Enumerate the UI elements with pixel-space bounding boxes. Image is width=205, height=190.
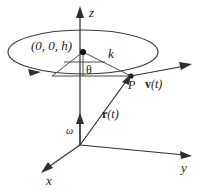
vector-diagram: z y x θ k (0, 0, h) P v(t) bbox=[0, 0, 205, 190]
position-vector-argument: (t) bbox=[107, 107, 118, 121]
z-axis-arrowhead bbox=[76, 6, 84, 18]
circle-center-dot bbox=[80, 49, 86, 55]
y-axis-label: y bbox=[179, 160, 187, 175]
theta-angle-label: θ bbox=[86, 63, 92, 77]
position-vector-label: r(t) bbox=[102, 107, 119, 121]
velocity-vector-argument: (t) bbox=[151, 77, 162, 91]
angular-velocity-arrowhead bbox=[76, 113, 84, 124]
angular-velocity-label: ω bbox=[66, 125, 73, 136]
velocity-vector-arrowhead bbox=[179, 62, 192, 70]
x-axis-line bbox=[47, 145, 80, 168]
radius-k-label: k bbox=[108, 46, 114, 61]
y-axis-line bbox=[80, 145, 185, 155]
circle-center-coordinate-label: (0, 0, h) bbox=[31, 38, 72, 53]
figure-container: z y x θ k (0, 0, h) P v(t) bbox=[0, 0, 205, 190]
velocity-vector-label: v(t) bbox=[145, 77, 162, 91]
z-axis-label: z bbox=[88, 5, 94, 20]
velocity-vector-line bbox=[131, 66, 185, 76]
x-axis-label: x bbox=[45, 173, 52, 188]
x-axis-arrowhead bbox=[41, 162, 53, 173]
triangle-left-leg bbox=[52, 52, 83, 76]
y-axis-arrowhead bbox=[180, 151, 192, 159]
